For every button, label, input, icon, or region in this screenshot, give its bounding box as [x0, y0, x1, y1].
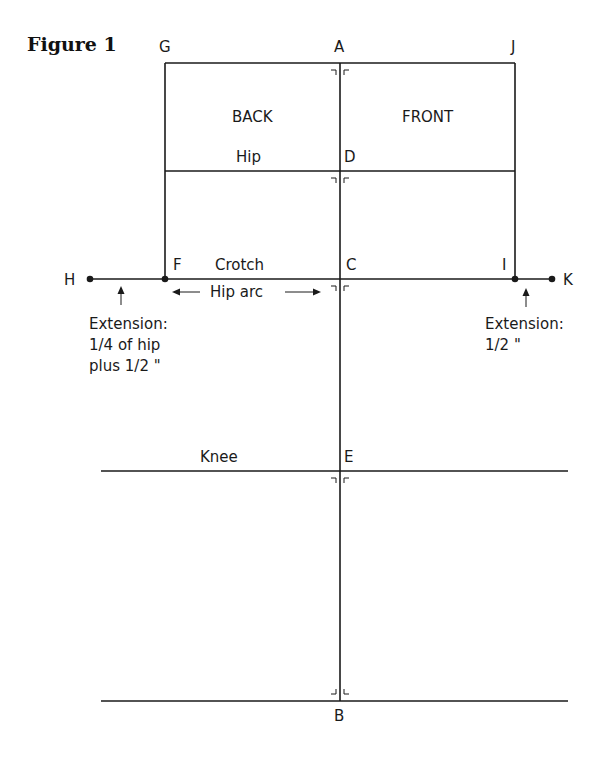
point-label-B: B [334, 707, 344, 725]
extension-left-line1: Extension: [89, 315, 168, 333]
point-K-dot [549, 276, 556, 283]
point-label-D: D [344, 148, 356, 166]
label-crotch: Crotch [215, 256, 264, 274]
point-I-dot [512, 276, 519, 283]
point-label-F: F [173, 256, 182, 274]
point-label-H: H [64, 271, 75, 289]
point-label-A: A [334, 38, 345, 56]
point-H-dot [87, 276, 94, 283]
figure-title: Figure 1 [27, 33, 117, 55]
label-front: FRONT [402, 108, 454, 126]
label-knee: Knee [200, 448, 238, 466]
point-label-J: J [510, 38, 515, 56]
point-label-E: E [344, 448, 353, 466]
extension-right-annotation: Extension: 1/2 " [485, 288, 564, 354]
extension-left-line2: 1/4 of hip [89, 336, 160, 354]
extension-right-line2: 1/2 " [485, 336, 521, 354]
label-hip: Hip [236, 148, 261, 166]
arrow-right-icon [313, 289, 321, 296]
point-label-K: K [563, 271, 574, 289]
label-back: BACK [232, 108, 274, 126]
extension-right-line1: Extension: [485, 315, 564, 333]
hip-arc-dimension: Hip arc [172, 283, 321, 301]
extension-left-annotation: Extension: 1/4 of hip plus 1/2 " [89, 286, 168, 375]
point-label-G: G [159, 38, 171, 56]
arrow-up-icon [523, 288, 530, 296]
label-hip-arc: Hip arc [210, 283, 263, 301]
point-label-I: I [502, 256, 506, 274]
point-label-C: C [346, 256, 356, 274]
arrow-left-icon [172, 289, 180, 296]
point-F-dot [162, 276, 169, 283]
pattern-draft-diagram: Figure 1 G A J D F C I H K E B BACK FRON… [0, 0, 610, 761]
arrow-up-icon [118, 286, 125, 294]
extension-left-line3: plus 1/2 " [89, 357, 161, 375]
